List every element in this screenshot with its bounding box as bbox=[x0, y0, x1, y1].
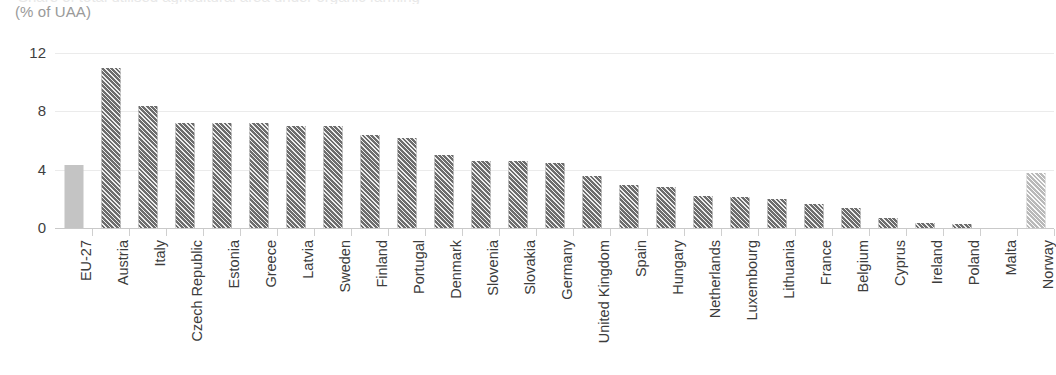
bar[interactable] bbox=[804, 204, 823, 228]
y-axis-tick-label: 8 bbox=[2, 103, 46, 118]
bar-group[interactable]: Greece bbox=[240, 0, 277, 375]
bar[interactable] bbox=[175, 123, 194, 228]
bar-group[interactable]: Portugal bbox=[388, 0, 425, 375]
bar-group[interactable]: Slovakia bbox=[499, 0, 536, 375]
y-axis-tick-label: 12 bbox=[2, 45, 46, 60]
bar[interactable] bbox=[101, 68, 120, 228]
bar-group[interactable]: Lithuania bbox=[758, 0, 795, 375]
bar[interactable] bbox=[212, 123, 231, 228]
bar-group[interactable]: Germany bbox=[536, 0, 573, 375]
bar[interactable] bbox=[878, 218, 897, 228]
bar[interactable] bbox=[138, 106, 157, 229]
bar-group[interactable]: Luxembourg bbox=[721, 0, 758, 375]
bar-group[interactable]: United Kingdom bbox=[573, 0, 610, 375]
bar-group[interactable]: Malta bbox=[980, 0, 1017, 375]
bar[interactable] bbox=[545, 163, 564, 228]
bar[interactable] bbox=[730, 197, 749, 228]
x-axis-category-label: Portugal bbox=[412, 240, 427, 294]
bar[interactable] bbox=[360, 135, 379, 228]
bar[interactable] bbox=[619, 185, 638, 228]
bar[interactable] bbox=[323, 126, 342, 228]
x-axis-category-label: Spain bbox=[634, 240, 649, 277]
x-axis-category-label: EU-27 bbox=[79, 240, 94, 281]
x-axis-category-label: Austria bbox=[116, 240, 131, 285]
x-axis-category-label: Malta bbox=[1004, 240, 1019, 275]
bar-group[interactable]: EU-27 bbox=[55, 0, 92, 375]
bar[interactable] bbox=[286, 126, 305, 228]
x-axis-category-label: Latvia bbox=[301, 240, 316, 279]
bar-group[interactable]: Ireland bbox=[906, 0, 943, 375]
y-axis-tick-label: 4 bbox=[2, 162, 46, 177]
bar[interactable] bbox=[952, 224, 971, 228]
x-axis-category-label: Sweden bbox=[338, 240, 353, 292]
bar[interactable] bbox=[989, 227, 1008, 228]
x-axis-category-label: Italy bbox=[153, 240, 168, 267]
y-axis-tick-label: 0 bbox=[2, 220, 46, 235]
x-axis-category-label: France bbox=[819, 240, 834, 285]
bar-group[interactable]: Italy bbox=[129, 0, 166, 375]
bar[interactable] bbox=[397, 138, 416, 228]
x-axis-category-label: United Kingdom bbox=[597, 240, 612, 343]
bar[interactable] bbox=[582, 176, 601, 228]
bars-group: EU-27AustriaItalyCzech RepublicEstoniaGr… bbox=[55, 0, 1054, 375]
bar[interactable] bbox=[841, 208, 860, 228]
x-axis-category-label: Czech Republic bbox=[190, 240, 205, 342]
bar-group[interactable]: Denmark bbox=[425, 0, 462, 375]
x-axis-category-label: Cyprus bbox=[893, 240, 908, 286]
x-axis-category-label: Lithuania bbox=[782, 240, 797, 299]
bar[interactable] bbox=[249, 123, 268, 228]
x-axis-category-label: Slovenia bbox=[486, 240, 501, 296]
bar-group[interactable]: Finland bbox=[351, 0, 388, 375]
bar-group[interactable]: Netherlands bbox=[684, 0, 721, 375]
bar[interactable] bbox=[434, 155, 453, 228]
x-axis-category-label: Netherlands bbox=[708, 240, 723, 318]
bar-group[interactable]: Latvia bbox=[277, 0, 314, 375]
bar-group[interactable]: Belgium bbox=[832, 0, 869, 375]
bar-group[interactable]: Norway bbox=[1017, 0, 1054, 375]
x-axis-category-label: Greece bbox=[264, 240, 279, 288]
x-axis-category-label: Ireland bbox=[930, 240, 945, 284]
x-axis-category-label: Finland bbox=[375, 240, 390, 288]
x-axis-tick bbox=[1054, 229, 1055, 236]
bar-group[interactable]: Austria bbox=[92, 0, 129, 375]
bar[interactable] bbox=[471, 161, 490, 228]
bar-group[interactable]: Slovenia bbox=[462, 0, 499, 375]
bar[interactable] bbox=[64, 165, 83, 228]
bar[interactable] bbox=[915, 223, 934, 228]
bar-group[interactable]: France bbox=[795, 0, 832, 375]
bar-group[interactable]: Spain bbox=[610, 0, 647, 375]
x-axis-category-label: Poland bbox=[967, 240, 982, 285]
bar[interactable] bbox=[1026, 173, 1045, 228]
x-axis-category-label: Slovakia bbox=[523, 240, 538, 295]
x-axis-category-label: Denmark bbox=[449, 240, 464, 299]
x-axis-category-label: Norway bbox=[1041, 240, 1056, 289]
bar[interactable] bbox=[767, 199, 786, 228]
bar[interactable] bbox=[693, 196, 712, 228]
bar[interactable] bbox=[508, 161, 527, 228]
x-axis-category-label: Estonia bbox=[227, 240, 242, 288]
bar-group[interactable]: Estonia bbox=[203, 0, 240, 375]
bar-group[interactable]: Cyprus bbox=[869, 0, 906, 375]
bar-group[interactable]: Sweden bbox=[314, 0, 351, 375]
bar[interactable] bbox=[656, 187, 675, 228]
x-axis-category-label: Luxembourg bbox=[745, 240, 760, 321]
x-axis-category-label: Germany bbox=[560, 240, 575, 300]
bar-group[interactable]: Hungary bbox=[647, 0, 684, 375]
x-axis-category-label: Belgium bbox=[856, 240, 871, 292]
bar-group[interactable]: Czech Republic bbox=[166, 0, 203, 375]
x-axis-category-label: Hungary bbox=[671, 240, 686, 295]
bar-group[interactable]: Poland bbox=[943, 0, 980, 375]
